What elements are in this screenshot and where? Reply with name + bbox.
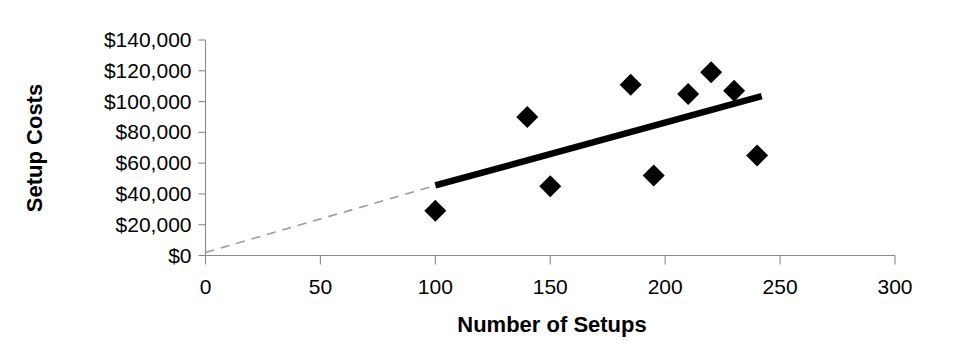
x-axis-group: 050100150200250300 [200, 256, 913, 298]
chart-canvas: $0$20,000$40,000$60,000$80,000$100,000$1… [0, 0, 960, 363]
scatter-chart: $0$20,000$40,000$60,000$80,000$100,000$1… [0, 0, 960, 363]
data-point-marker [700, 61, 722, 83]
x-axis-title: Number of Setups [457, 312, 646, 337]
y-tick-labels: $0$20,000$40,000$60,000$80,000$100,000$1… [104, 28, 192, 267]
trendline-solid [435, 96, 761, 185]
y-axis-group: $0$20,000$40,000$60,000$80,000$100,000$1… [104, 28, 206, 267]
y-tick-label: $120,000 [104, 59, 192, 82]
data-point-marker [516, 106, 538, 128]
x-tick-label: 0 [200, 275, 212, 298]
x-tick-marks [206, 256, 896, 265]
x-tick-label: 300 [877, 275, 912, 298]
y-tick-label: $0 [168, 244, 191, 267]
data-point-marker [643, 164, 665, 186]
trendline-extension-line [206, 185, 436, 252]
y-tick-label: $20,000 [116, 213, 192, 236]
x-tick-label: 250 [763, 275, 798, 298]
y-tick-label: $100,000 [104, 90, 192, 113]
y-tick-label: $140,000 [104, 28, 192, 51]
x-tick-label: 150 [533, 275, 568, 298]
x-tick-labels: 050100150200250300 [200, 275, 913, 298]
trendline-extension-dashed [206, 185, 436, 252]
data-point-marker [424, 200, 446, 222]
data-point-marker [620, 74, 642, 96]
x-tick-label: 50 [309, 275, 332, 298]
data-point-marker [539, 175, 561, 197]
y-tick-label: $60,000 [116, 151, 192, 174]
y-tick-marks [199, 40, 206, 256]
data-point-marker [746, 144, 768, 166]
y-tick-label: $80,000 [116, 120, 192, 143]
x-tick-label: 100 [418, 275, 453, 298]
y-tick-label: $40,000 [116, 182, 192, 205]
data-point-marker [677, 83, 699, 105]
x-tick-label: 200 [648, 275, 683, 298]
y-axis-title: Setup Costs [22, 84, 47, 212]
trendline-line [435, 96, 761, 185]
